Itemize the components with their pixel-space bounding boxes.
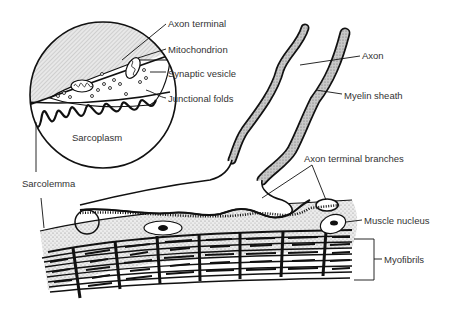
label-axon: Axon	[362, 50, 384, 61]
label-synaptic-vesicle: Synaptic vesicle	[168, 68, 236, 79]
label-myelin-sheath: Myelin sheath	[344, 90, 403, 101]
label-myofibrils: Myofibrils	[384, 254, 424, 265]
label-sarcoplasm: Sarcoplasm	[72, 132, 122, 143]
label-axon-terminal: Axon terminal	[168, 18, 226, 29]
label-muscle-nucleus: Muscle nucleus	[364, 215, 429, 226]
label-sarcolemma: Sarcolemma	[22, 178, 75, 189]
label-mitochondrion: Mitochondrion	[168, 44, 228, 55]
label-junctional-folds: Junctional folds	[168, 93, 233, 104]
label-axon-terminal-branches: Axon terminal branches	[304, 153, 404, 164]
